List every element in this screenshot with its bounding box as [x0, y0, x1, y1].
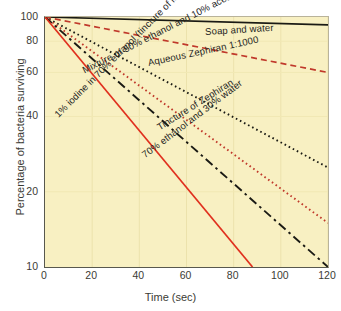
series-line [45, 17, 328, 72]
y-tick-label: 100 [0, 11, 38, 22]
plot-area [44, 16, 329, 268]
x-tick-label: 20 [85, 270, 97, 281]
x-tick-label: 0 [41, 270, 47, 281]
x-tick-label: 60 [180, 270, 192, 281]
x-tick-label: 40 [132, 270, 144, 281]
x-tick-label: 100 [271, 270, 289, 281]
data-lines [45, 17, 328, 267]
x-tick-label: 120 [318, 270, 336, 281]
x-axis-title: Time (sec) [0, 291, 341, 303]
series-line [45, 17, 328, 25]
series-line [45, 17, 328, 168]
y-tick-label: 10 [0, 261, 38, 272]
x-tick-label: 80 [227, 270, 239, 281]
series-line [45, 17, 328, 267]
series-line [45, 17, 328, 223]
y-axis-title: Percentage of bacteria surviving [14, 22, 26, 252]
series-line [45, 17, 253, 267]
bacteria-survival-chart: 1008060402010 020406080100120 Soap and w… [0, 0, 341, 311]
